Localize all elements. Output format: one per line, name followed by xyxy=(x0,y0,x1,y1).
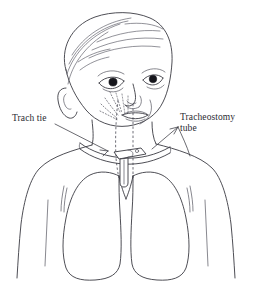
tracheostomy-tube-shaft xyxy=(120,158,128,187)
right-lung xyxy=(131,172,189,280)
neck xyxy=(92,120,156,145)
illustration-canvas xyxy=(0,0,255,289)
tracheostomy-figure: Trach tie Tracheostomy tube xyxy=(0,0,255,289)
hair-strands xyxy=(67,18,163,84)
mouth xyxy=(122,111,148,121)
left-lung xyxy=(63,172,121,280)
label-tracheostomy-tube: Tracheostomy tube xyxy=(180,112,235,134)
label-trach-tie: Trach tie xyxy=(12,113,47,124)
leader-line-trach-tie xyxy=(55,124,108,156)
left-eye xyxy=(98,71,124,92)
right-eye xyxy=(142,69,165,89)
